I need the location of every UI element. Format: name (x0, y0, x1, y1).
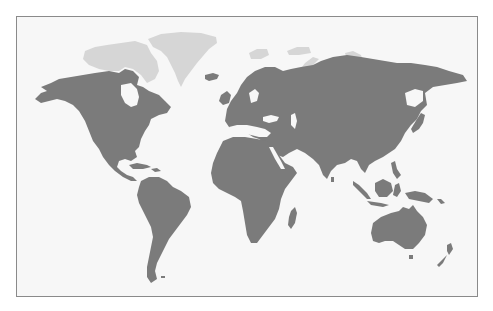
british-isles (219, 91, 231, 105)
new-zealand-south (437, 255, 447, 267)
java (367, 201, 389, 207)
cuba (129, 163, 151, 169)
continents (35, 55, 467, 283)
world-map (16, 16, 478, 297)
world-map-svg (17, 17, 477, 296)
new-guinea (405, 191, 433, 203)
hispaniola (151, 168, 161, 172)
tasmania (409, 255, 413, 259)
sulawesi (393, 183, 401, 197)
falkland-islands (161, 276, 165, 278)
philippines (391, 161, 401, 179)
sri-lanka (331, 177, 334, 182)
australia (371, 205, 427, 249)
borneo (375, 179, 393, 197)
sumatra (353, 181, 371, 199)
franz-josef-land (287, 47, 311, 55)
madagascar (288, 207, 297, 229)
south-america (137, 177, 191, 283)
svalbard (249, 49, 269, 59)
new-zealand-north (447, 243, 453, 255)
iceland (205, 73, 219, 81)
solomon-islands (437, 199, 445, 204)
north-america (35, 69, 171, 181)
